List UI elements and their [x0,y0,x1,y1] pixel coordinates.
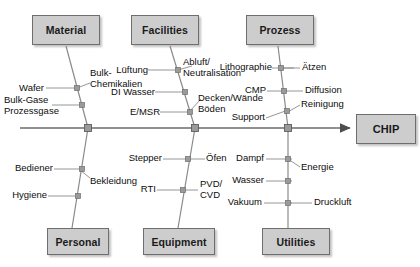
node-emsr [188,110,193,115]
node-wasser [286,179,291,184]
category-label-equipment: Equipment [151,236,206,248]
cause-label-stepper: Stepper [123,153,162,164]
spine-node-material-personal [85,125,92,132]
node-dampf [286,157,291,162]
cause-label-lithographie: Lithographie [212,62,272,73]
node-rti [181,188,186,193]
category-label-facilities: Facilities [142,24,188,36]
node-hygiene [76,194,81,199]
node-vakuum [286,201,291,206]
cause-label-di-wasser: DI Wasser [105,87,155,98]
cause-label-bediener: Bediener [10,163,53,174]
effect-label-chip: CHIP [373,123,400,135]
node-bulk-gase [80,103,85,108]
category-box-facilities[interactable]: Facilities [131,15,199,45]
category-box-personal[interactable]: Personal [47,228,109,255]
cause-label-wafer: Wafer [6,83,44,94]
cause-label-reinigung: Reinigung [301,99,351,110]
cause-label-vakuum: Vakuum [220,197,262,208]
category-box-utilities[interactable]: Utilities [262,228,330,255]
category-box-material[interactable]: Material [32,15,100,45]
branch-line-prozess [278,46,288,128]
cause-label-support: Support [223,112,265,123]
category-label-prozess: Prozess [260,24,301,36]
node-di-wasser [183,90,188,95]
cause-label-emsr: E/MSR [125,107,160,118]
spine-node-prozess-utilities [285,125,292,132]
node-cmp [282,89,287,94]
cause-label-energie: Energie [301,162,345,173]
cause-label-rti: RTI [133,184,156,195]
cause-label-bulk-gase: Bulk-Gase Prozessgase [4,95,60,116]
effect-box-chip[interactable]: CHIP [356,114,416,144]
category-box-prozess[interactable]: Prozess [246,15,314,45]
category-label-utilities: Utilities [277,236,316,248]
spine-node-facilities-equipment [192,125,199,132]
cause-label-wasser: Wasser [224,175,264,186]
cause-label-dampf: Dampf [228,153,264,164]
node-bediener [80,167,85,172]
category-label-material: Material [46,24,86,36]
branch-line-equipment [178,128,195,228]
node-lueftung [176,68,181,73]
cause-label-druckluft: Druckluft [314,197,362,208]
cause-label-cmp: CMP [238,85,266,96]
node-support [285,109,290,114]
cause-label-aetzen: Ätzen [302,62,340,73]
node-lithographie [279,66,284,71]
cause-label-lueftung: Lüftung [108,65,148,76]
cause-label-hygiene: Hygiene [8,190,47,201]
branch-line-personal [72,128,88,228]
cause-label-diffusion: Diffusion [305,85,353,96]
category-box-equipment[interactable]: Equipment [143,228,215,255]
category-label-personal: Personal [55,236,100,248]
node-stepper [186,157,191,162]
node-wafer [75,86,80,91]
